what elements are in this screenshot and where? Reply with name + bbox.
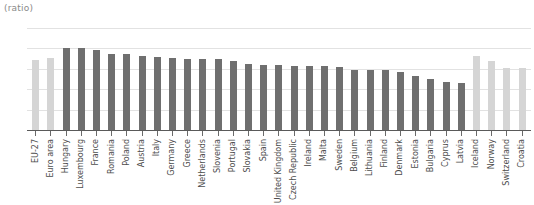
bar <box>260 65 267 130</box>
bar <box>215 59 222 130</box>
category-slot: Czech Republic <box>287 137 300 203</box>
bar <box>199 59 206 130</box>
category-label: Estonia <box>412 139 420 168</box>
category-label: Greece <box>184 139 192 167</box>
category-label: Bulgaria <box>427 139 435 172</box>
category-slot: Euro area <box>44 137 57 203</box>
category-slot: Cyprus <box>439 137 452 203</box>
category-label: Italy <box>153 139 161 156</box>
bar-slot <box>166 28 179 130</box>
bar <box>488 61 495 130</box>
tick-mark <box>96 131 97 136</box>
bar <box>427 79 434 130</box>
tick-mark <box>233 131 234 136</box>
category-label: Norway <box>488 139 496 169</box>
bar-chart: (ratio) 1.251.000.750.500.250 EU-27Euro … <box>0 0 534 205</box>
category-slot: France <box>90 137 103 203</box>
category-slot: Belgium <box>348 137 361 203</box>
tick-mark <box>415 131 416 136</box>
tick-mark <box>187 131 188 136</box>
bar-slot <box>59 28 72 130</box>
tick-mark <box>476 131 477 136</box>
tick-mark <box>294 131 295 136</box>
bar-slot <box>135 28 148 130</box>
tick-mark <box>522 131 523 136</box>
tick-mark <box>35 131 36 136</box>
bar <box>32 60 39 130</box>
category-label: Euro area <box>47 139 55 178</box>
bar-slot <box>242 28 255 130</box>
tick-mark <box>202 131 203 136</box>
tick-mark <box>461 131 462 136</box>
bar <box>123 54 130 130</box>
category-slot: Norway <box>485 137 498 203</box>
category-label: Austria <box>138 139 146 167</box>
bar-series <box>27 28 531 130</box>
category-label: Czech Republic <box>290 139 298 200</box>
tick-mark <box>324 131 325 136</box>
bar-slot <box>379 28 392 130</box>
tick-mark <box>491 131 492 136</box>
category-label: United Kingdom <box>275 139 283 203</box>
category-label: Malta <box>320 139 328 161</box>
category-label: Lithuania <box>366 139 374 176</box>
category-slot: Latvia <box>455 137 468 203</box>
bar <box>321 66 328 130</box>
category-slot: Portugal <box>227 137 240 203</box>
category-slot: Luxembourg <box>75 137 88 203</box>
category-slot: EU-27 <box>29 137 42 203</box>
category-slot: Austria <box>135 137 148 203</box>
tick-mark <box>309 131 310 136</box>
tick-mark <box>111 131 112 136</box>
bar-slot <box>363 28 376 130</box>
bar <box>291 66 298 130</box>
bar <box>473 56 480 130</box>
category-label: Finland <box>381 139 389 168</box>
bar <box>245 64 252 130</box>
category-label: Poland <box>123 139 131 166</box>
category-label: Belgium <box>351 139 359 172</box>
bar <box>412 76 419 130</box>
category-slot: Estonia <box>409 137 422 203</box>
category-slot: Hungary <box>59 137 72 203</box>
bar <box>230 61 237 130</box>
bar <box>108 54 115 130</box>
tick-mark <box>385 131 386 136</box>
bar <box>78 48 85 130</box>
tick-mark <box>248 131 249 136</box>
tick-mark <box>446 131 447 136</box>
x-axis-category-labels: EU-27Euro areaHungaryLuxembourgFranceRom… <box>27 137 531 203</box>
bar <box>154 57 161 130</box>
category-label: Romania <box>108 139 116 174</box>
category-slot: Denmark <box>394 137 407 203</box>
category-slot: Switzerland <box>500 137 513 203</box>
unit-label: (ratio) <box>4 3 33 13</box>
bar-slot <box>196 28 209 130</box>
bar <box>93 50 100 130</box>
tick-mark <box>218 131 219 136</box>
bar-slot <box>470 28 483 130</box>
bar-slot <box>105 28 118 130</box>
bar-slot <box>500 28 513 130</box>
bar-slot <box>29 28 42 130</box>
bar-slot <box>257 28 270 130</box>
category-slot: Slovenia <box>211 137 224 203</box>
category-label: Cyprus <box>442 139 450 167</box>
category-label: Hungary <box>62 139 70 173</box>
category-slot: Croatia <box>516 137 529 203</box>
category-label: Slovenia <box>214 139 222 173</box>
category-slot: Slovakia <box>242 137 255 203</box>
tick-mark <box>81 131 82 136</box>
category-label: Germany <box>168 139 176 176</box>
category-label: Portugal <box>229 139 237 172</box>
category-label: Spain <box>260 139 268 161</box>
bar <box>169 58 176 130</box>
bar-slot <box>90 28 103 130</box>
plot-area <box>27 28 531 131</box>
tick-mark <box>157 131 158 136</box>
bar <box>382 70 389 130</box>
bar-slot <box>333 28 346 130</box>
bar-slot <box>44 28 57 130</box>
bar <box>443 82 450 130</box>
bar <box>184 59 191 130</box>
